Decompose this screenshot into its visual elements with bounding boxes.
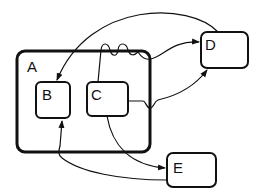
state-a-label: A (27, 59, 37, 74)
statechart-diagram (0, 0, 264, 196)
transition-d-to-b (57, 13, 218, 80)
state-b-label: B (42, 87, 52, 102)
state-c-label: C (91, 87, 102, 102)
state-e-label: E (173, 160, 183, 175)
transition-c-to-e (107, 116, 165, 168)
transition-c-to-d-side (128, 70, 207, 108)
state-d-label: D (205, 37, 216, 52)
